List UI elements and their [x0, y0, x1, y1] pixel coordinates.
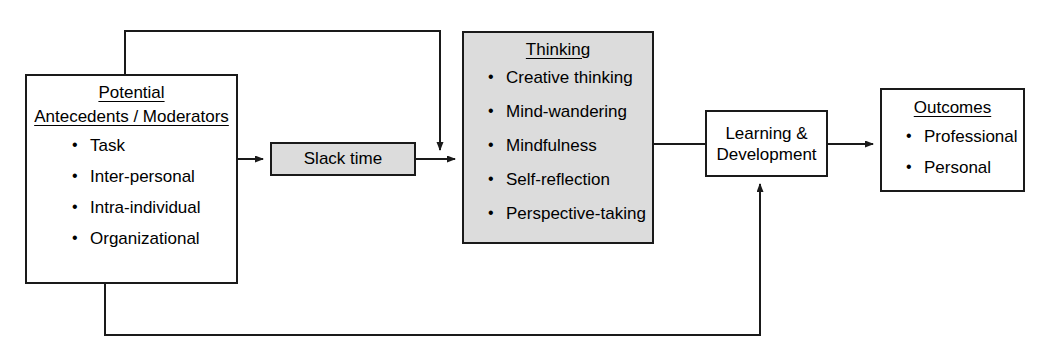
node-thinking-bullet-list: Creative thinking Mind-wandering Mindful… — [486, 68, 652, 224]
node-outcomes: Outcomes Professional Personal — [880, 88, 1025, 192]
list-item: Task — [70, 136, 236, 156]
list-item: Perspective-taking — [486, 204, 652, 224]
node-potential-subtitle: Antecedents / Moderators — [27, 107, 236, 127]
node-thinking-title: Thinking — [464, 40, 652, 60]
node-thinking: Thinking Creative thinking Mind-wanderin… — [462, 31, 654, 244]
node-slack-time-label: Slack time — [304, 149, 382, 169]
node-learning-development-label: Learning & Development — [707, 123, 826, 165]
node-slack-time: Slack time — [270, 142, 416, 176]
diagram-canvas: Potential Antecedents / Moderators Task … — [0, 0, 1045, 355]
list-item: Professional — [904, 127, 1023, 147]
list-item: Creative thinking — [486, 68, 652, 88]
node-potential: Potential Antecedents / Moderators Task … — [25, 74, 238, 284]
list-item: Mindfulness — [486, 136, 652, 156]
list-item: Intra-individual — [70, 198, 236, 218]
node-potential-bullet-list: Task Inter-personal Intra-individual Org… — [70, 136, 236, 249]
list-item: Self-reflection — [486, 170, 652, 190]
node-potential-title: Potential — [27, 83, 236, 103]
list-item: Organizational — [70, 229, 236, 249]
node-learning-development: Learning & Development — [705, 110, 828, 177]
node-outcomes-bullet-list: Professional Personal — [904, 127, 1023, 178]
list-item: Personal — [904, 158, 1023, 178]
list-item: Inter-personal — [70, 167, 236, 187]
list-item: Mind-wandering — [486, 102, 652, 122]
node-outcomes-title: Outcomes — [882, 98, 1023, 118]
